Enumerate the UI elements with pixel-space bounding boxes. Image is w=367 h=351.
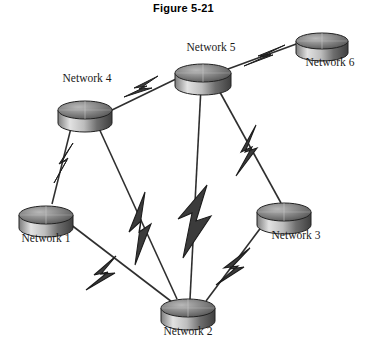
link-network5-network6 bbox=[228, 43, 299, 69]
node-label-network-3: Network 3 bbox=[272, 229, 321, 241]
figure-container: Figure 5-21 bbox=[0, 0, 367, 351]
link-network3-network2 bbox=[206, 222, 265, 301]
node-network-4[interactable] bbox=[58, 101, 112, 132]
lightning-bolt-icon bbox=[236, 125, 257, 176]
node-label-network-6: Network 6 bbox=[306, 56, 355, 68]
lightning-bolt-icon bbox=[178, 185, 211, 258]
node-label-network-1: Network 1 bbox=[22, 232, 71, 244]
node-label-network-5: Network 5 bbox=[187, 41, 236, 53]
node-label-network-4: Network 4 bbox=[63, 72, 112, 84]
link-network5-network3 bbox=[216, 85, 281, 203]
link-network1-network2 bbox=[70, 224, 172, 302]
lightning-bolt-icon bbox=[54, 143, 73, 183]
node-network-5[interactable] bbox=[175, 64, 231, 95]
link-network4-network1 bbox=[52, 124, 73, 204]
topology-canvas bbox=[0, 0, 367, 351]
lightning-bolt-icon bbox=[86, 256, 116, 290]
link-network4-network5 bbox=[112, 76, 176, 110]
lightning-bolt-icon bbox=[124, 76, 158, 97]
node-label-network-2: Network 2 bbox=[164, 325, 213, 337]
link-network4-network2 bbox=[97, 124, 177, 299]
lightning-bolt-icon bbox=[244, 45, 285, 66]
link-network5-network2 bbox=[178, 87, 211, 299]
